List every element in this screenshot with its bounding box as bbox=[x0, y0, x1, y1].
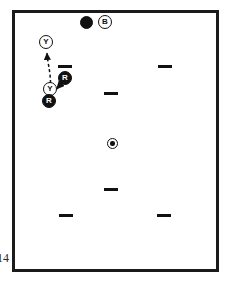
dash-upper-left bbox=[58, 65, 72, 68]
player-marker-y1: Y bbox=[39, 35, 53, 49]
dash-lower-center bbox=[104, 188, 118, 191]
dash-upper-right bbox=[158, 65, 172, 68]
diagram-figure: B Y R Y R 14 bbox=[0, 0, 229, 281]
player-marker-r1: R bbox=[58, 71, 72, 85]
dash-bottom-right bbox=[157, 214, 171, 217]
player-marker-b: B bbox=[98, 15, 112, 29]
dash-bottom-left bbox=[59, 214, 73, 217]
player-marker-r2: R bbox=[42, 94, 56, 108]
page-number: 14 bbox=[0, 252, 9, 264]
ball-dot-marker bbox=[80, 16, 93, 29]
ball-target-marker bbox=[107, 138, 118, 149]
dash-mid-center bbox=[104, 92, 118, 95]
